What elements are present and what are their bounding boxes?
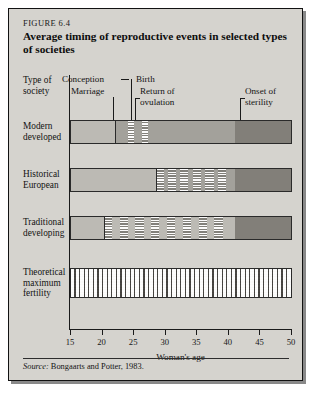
x-axis-tick bbox=[102, 330, 103, 335]
bar-segment-mid bbox=[148, 121, 235, 143]
bar-segment-light bbox=[71, 217, 104, 239]
x-axis-tick bbox=[133, 330, 134, 335]
callout-birth: Birth bbox=[136, 74, 155, 85]
x-axis-tick-label: 30 bbox=[153, 337, 177, 347]
bar-segment-hatch bbox=[167, 217, 175, 239]
callout-label-line: Birth bbox=[136, 74, 155, 85]
x-axis-tick bbox=[259, 330, 260, 335]
bar-segment-hatch bbox=[205, 169, 213, 191]
bar-segment-light bbox=[175, 217, 183, 239]
x-axis-tick-label: 50 bbox=[279, 337, 303, 347]
row-label-line: European bbox=[23, 180, 60, 191]
row-label-line: Traditional bbox=[23, 217, 64, 228]
callout-return-of-ovulation: Return ofovulation bbox=[140, 86, 175, 107]
x-axis-tick-label: 20 bbox=[90, 337, 114, 347]
bar-segment-light bbox=[223, 217, 236, 239]
callout-leader-line bbox=[121, 79, 129, 80]
bar-segment-light bbox=[112, 217, 120, 239]
bar-segment-light bbox=[159, 217, 167, 239]
bar-segment-hatch bbox=[214, 217, 222, 239]
bar-segment-light bbox=[191, 217, 199, 239]
source-divider bbox=[23, 358, 289, 359]
bar-segment-light bbox=[144, 217, 152, 239]
x-axis-tick-label: 45 bbox=[247, 337, 271, 347]
bar-segment-mid bbox=[226, 169, 235, 191]
timeline-bar-modern-developed bbox=[70, 120, 292, 144]
bar-segment-hatch bbox=[120, 217, 128, 239]
bar-segment-hatch bbox=[193, 169, 201, 191]
x-axis-tick-label: 40 bbox=[216, 337, 240, 347]
bar-segment-dark bbox=[235, 169, 292, 191]
callout-conception: Conception bbox=[62, 74, 104, 85]
bar-segment-light bbox=[71, 121, 115, 143]
callout-label-line: Conception bbox=[62, 74, 104, 85]
row-label-line: Theoretical bbox=[23, 267, 65, 278]
row-label-historical-european: HistoricalEuropean bbox=[23, 169, 60, 190]
segment-divider-rule bbox=[156, 169, 157, 191]
x-axis-tick bbox=[70, 330, 71, 335]
source-note: Source: Bongaarts and Potter, 1983. bbox=[23, 362, 144, 371]
bar-segment-dense-hatch bbox=[71, 269, 292, 297]
x-axis-tick-label: 15 bbox=[58, 337, 82, 347]
row-label-line: developed bbox=[23, 132, 61, 143]
row-label-modern-developed: Moderndeveloped bbox=[23, 121, 61, 142]
x-axis-tick-label: 35 bbox=[184, 337, 208, 347]
source-text: Bongaarts and Potter, 1983. bbox=[51, 362, 144, 371]
plot-area: 1520253035404550ModerndevelopedHistorica… bbox=[9, 9, 304, 382]
bar-segment-hatch bbox=[183, 217, 191, 239]
callout-label-line: Return of bbox=[140, 86, 175, 97]
bar-segment-hatch bbox=[151, 217, 159, 239]
x-axis-tick-label: 25 bbox=[121, 337, 145, 347]
bar-segment-hatch bbox=[218, 169, 226, 191]
x-axis-tick bbox=[228, 330, 229, 335]
callout-leader-line bbox=[131, 79, 132, 120]
row-label-line: fertility bbox=[23, 288, 65, 299]
row-label-line: developing bbox=[23, 228, 64, 239]
bar-segment-hatch bbox=[156, 169, 164, 191]
row-label-theoretical-maximum-fertility: Theoreticalmaximumfertility bbox=[23, 267, 65, 299]
callout-marriage: Marriage bbox=[71, 86, 104, 97]
callout-leader-line bbox=[240, 98, 241, 120]
source-prefix: Source: bbox=[23, 362, 49, 371]
bar-segment-light bbox=[71, 169, 156, 191]
row-label-line: maximum bbox=[23, 278, 65, 289]
row-label-line: Modern bbox=[23, 121, 61, 132]
figure-panel: FIGURE 6.4 Average timing of reproductiv… bbox=[8, 8, 303, 381]
bar-segment-hatch bbox=[180, 169, 188, 191]
callout-label-line: Onset of bbox=[245, 86, 276, 97]
timeline-bar-historical-european bbox=[70, 168, 292, 192]
row-label-traditional-developing: Traditionaldeveloping bbox=[23, 217, 64, 238]
callout-leader-line bbox=[113, 97, 114, 120]
bar-segment-hatch bbox=[135, 217, 143, 239]
callout-leader-line bbox=[135, 98, 136, 120]
bar-segment-light bbox=[128, 217, 136, 239]
callout-onset-of-sterility: Onset ofsterility bbox=[245, 86, 276, 107]
callout-label-line: ovulation bbox=[140, 97, 175, 108]
segment-divider-rule bbox=[115, 121, 116, 143]
x-axis-tick bbox=[291, 330, 292, 335]
segment-divider-rule bbox=[104, 217, 105, 239]
x-axis-tick bbox=[196, 330, 197, 335]
timeline-bar-theoretical-maximum-fertility bbox=[70, 268, 292, 298]
x-axis-tick bbox=[165, 330, 166, 335]
row-label-line: Historical bbox=[23, 169, 60, 180]
bar-segment-light bbox=[207, 217, 215, 239]
bar-segment-hatch bbox=[168, 169, 176, 191]
timeline-bar-traditional-developing bbox=[70, 216, 292, 240]
bar-segment-hatch bbox=[104, 217, 112, 239]
bar-segment-dark bbox=[235, 121, 292, 143]
callout-label-line: sterility bbox=[245, 97, 276, 108]
callout-label-line: Marriage bbox=[71, 86, 104, 97]
bar-segment-dark bbox=[235, 217, 292, 239]
bar-segment-mid bbox=[134, 121, 142, 143]
bar-segment-hatch bbox=[199, 217, 207, 239]
x-axis-label: Woman's age bbox=[69, 352, 292, 362]
bar-segment-mid bbox=[115, 121, 128, 143]
